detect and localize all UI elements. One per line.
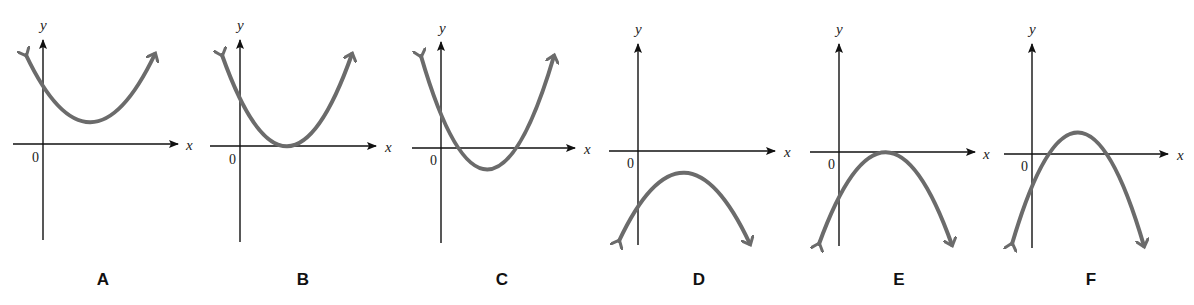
graph-f: y x 0 [1004,21,1184,248]
y-axis-label: y [235,17,244,33]
origin-label: 0 [32,150,39,165]
x-axis-label: x [583,141,591,157]
origin-label: 0 [229,152,236,167]
graph-d: y x 0 [609,21,791,245]
parabola-figure: y x 0 y x 0 y x 0 y x 0 y x 0 [0,0,1194,305]
parabola-curve [222,54,352,146]
origin-label: 0 [430,153,437,168]
graph-a: y x 0 [13,17,193,240]
origin-label: 0 [828,157,835,172]
graph-e: y x 0 [810,21,990,246]
parabola-curve [26,54,155,122]
y-axis-label: y [437,20,446,36]
y-axis-label: y [633,21,642,37]
x-axis-label: x [783,144,791,160]
y-axis-label: y [1027,21,1036,37]
x-axis-label: x [384,139,392,155]
x-axis-label: x [1176,147,1184,163]
origin-label: 0 [627,156,634,171]
panel-label-e: E [879,270,919,290]
y-axis-label: y [38,17,47,33]
panel-label-f: F [1071,270,1111,290]
x-axis-label: x [982,146,990,162]
graph-b: y x 0 [210,17,392,242]
origin-label: 0 [1021,159,1028,174]
panel-label-b: B [283,270,323,290]
panel-label-c: C [482,270,522,290]
y-axis-label: y [834,21,843,37]
panel-label-d: D [679,270,719,290]
x-axis-label: x [185,137,193,153]
graph-c: y x 0 [412,20,591,243]
panel-label-a: A [83,270,123,290]
